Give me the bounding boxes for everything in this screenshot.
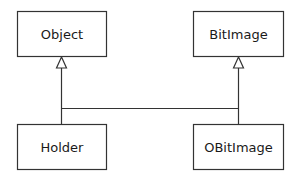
class-name-obitimage: OBitImage	[204, 140, 273, 155]
bitimage-inheritance-arrowhead-icon	[234, 57, 244, 68]
class-name-bitimage: BitImage	[209, 27, 267, 42]
class-name-object: Object	[41, 27, 83, 42]
class-box-bitimage[interactable]: BitImage	[194, 12, 284, 57]
class-diagram: Object BitImage Holder OBitImage	[0, 0, 300, 179]
object-inheritance-arrowhead-icon	[57, 57, 67, 68]
class-box-object[interactable]: Object	[18, 12, 107, 57]
class-box-holder[interactable]: Holder	[18, 125, 107, 170]
connectors	[62, 68, 239, 124]
class-box-obitimage[interactable]: OBitImage	[194, 125, 284, 170]
class-name-holder: Holder	[41, 140, 85, 155]
